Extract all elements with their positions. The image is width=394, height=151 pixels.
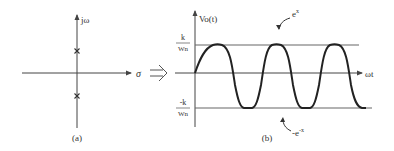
lower-envelope-label: -e (292, 128, 299, 138)
svg-text:Wn: Wn (178, 110, 189, 118)
lower-envelope-exponent: -x (299, 127, 304, 133)
svg-text:Wn: Wn (178, 45, 189, 53)
time-axis-label: ωt (365, 69, 374, 79)
implies-arrow-icon (150, 65, 167, 81)
svg-text:-e-x: -e-x (292, 127, 304, 138)
oscillation-waveform (195, 44, 366, 108)
caption-b: (b) (262, 133, 273, 143)
diagram-canvas: jω σ (a) Vo(t) ωt k Wn -k (0, 0, 394, 151)
upper-envelope-annotation: ex (276, 8, 299, 30)
time-response-panel: Vo(t) ωt k Wn -k Wn ex (175, 8, 374, 143)
lower-envelope-annotation: -e-x (280, 117, 304, 138)
imaginary-axis-label: jω (80, 15, 90, 25)
svg-text:ex: ex (292, 8, 299, 19)
svg-text:k: k (181, 33, 185, 42)
vertical-axis-label: Vo(t) (199, 14, 217, 24)
svg-text:-k: -k (180, 98, 187, 107)
s-plane-panel: jω σ (a) (22, 15, 142, 143)
upper-level-label: k Wn (176, 33, 190, 53)
upper-envelope-exponent: x (296, 8, 299, 14)
real-axis-label: σ (136, 68, 142, 79)
lower-level-label: -k Wn (176, 98, 190, 118)
caption-a: (a) (72, 133, 82, 143)
